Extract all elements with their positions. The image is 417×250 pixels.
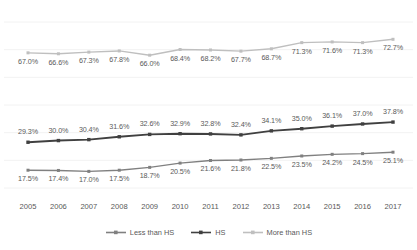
data-point-marker (300, 41, 303, 44)
data-point-marker (209, 159, 212, 162)
data-label: 21.6% (201, 164, 221, 173)
data-label: 32.6% (140, 119, 160, 128)
x-tick-label: 2008 (111, 202, 128, 211)
legend-swatch-icon (190, 228, 212, 237)
data-label: 71.3% (353, 47, 373, 56)
data-point-marker (391, 120, 394, 123)
data-label: 67.7% (231, 55, 251, 64)
data-point-marker (27, 51, 30, 54)
legend-item-less-than-hs[interactable]: Less than HS (105, 228, 174, 237)
data-label: 36.1% (322, 111, 342, 120)
data-point-marker (392, 38, 395, 41)
data-label: 17.5% (109, 174, 129, 183)
x-tick-label: 2009 (141, 202, 158, 211)
data-label: 30.4% (79, 125, 99, 134)
data-point-marker (26, 141, 29, 144)
data-point-marker (361, 122, 364, 125)
data-point-marker (148, 133, 151, 136)
data-point-marker (239, 133, 242, 136)
data-label: 29.3% (18, 127, 38, 136)
data-point-marker (392, 151, 395, 154)
data-point-marker (361, 152, 364, 155)
data-point-marker (57, 139, 60, 142)
data-label: 32.8% (201, 119, 221, 128)
data-point-marker (179, 48, 182, 51)
data-label: 68.4% (170, 54, 190, 63)
data-point-marker (118, 169, 121, 172)
data-label: 32.4% (231, 120, 251, 129)
data-point-marker (331, 40, 334, 43)
data-point-marker (330, 124, 333, 127)
data-label: 71.6% (322, 46, 342, 55)
data-label: 18.7% (140, 171, 160, 180)
data-point-marker (361, 41, 364, 44)
data-point-marker (118, 135, 121, 138)
data-label: 66.6% (48, 58, 68, 67)
data-label: 37.8% (383, 107, 403, 116)
data-point-marker (300, 154, 303, 157)
line-chart: 17.5%17.4%17.0%17.5%18.7%20.5%21.6%21.8%… (0, 0, 417, 250)
data-point-marker (87, 51, 90, 54)
legend-label: HS (215, 228, 225, 237)
legend-item-hs[interactable]: HS (190, 228, 225, 237)
data-label: 66.0% (140, 59, 160, 68)
data-point-marker (331, 153, 334, 156)
x-tick-label: 2011 (202, 202, 218, 211)
legend-swatch-icon (105, 228, 127, 237)
data-point-marker (209, 48, 212, 51)
data-point-marker (179, 162, 182, 165)
data-label: 21.8% (231, 164, 251, 173)
data-point-marker (57, 169, 60, 172)
data-label: 67.3% (79, 56, 99, 65)
data-label: 68.2% (201, 54, 221, 63)
data-label: 67.0% (18, 57, 38, 66)
data-point-marker (270, 129, 273, 132)
data-point-marker (270, 157, 273, 160)
legend-swatch-icon (242, 228, 264, 237)
data-label: 30.0% (48, 126, 68, 135)
data-point-marker (300, 127, 303, 130)
x-tick-label: 2010 (172, 202, 189, 211)
data-label: 24.2% (322, 158, 342, 167)
x-tick-label: 2007 (80, 202, 97, 211)
data-label: 68.7% (261, 53, 281, 62)
legend-item-more-than-hs[interactable]: More than HS (242, 228, 313, 237)
x-tick-label: 2006 (50, 202, 67, 211)
data-point-marker (239, 50, 242, 53)
data-point-marker (148, 166, 151, 169)
data-point-marker (178, 132, 181, 135)
data-label: 35.0% (292, 114, 312, 123)
data-point-marker (87, 138, 90, 141)
data-label: 67.8% (109, 55, 129, 64)
data-label: 17.5% (18, 174, 38, 183)
x-tick-label: 2017 (385, 202, 402, 211)
data-label: 32.9% (170, 119, 190, 128)
data-point-marker (148, 54, 151, 57)
data-point-marker (270, 47, 273, 50)
x-tick-label: 2012 (232, 202, 249, 211)
x-tick-label: 2016 (354, 202, 371, 211)
data-label: 25.1% (383, 156, 403, 165)
data-label: 17.0% (79, 175, 99, 184)
data-label: 37.0% (353, 109, 373, 118)
data-label: 22.5% (261, 162, 281, 171)
data-label: 72.7% (383, 43, 403, 52)
legend-label: Less than HS (130, 228, 174, 237)
chart-legend: Less than HSHSMore than HS (0, 228, 417, 237)
legend-label: More than HS (267, 228, 313, 237)
data-point-marker (239, 159, 242, 162)
x-tick-label: 2015 (324, 202, 341, 211)
data-label: 24.5% (353, 158, 373, 167)
data-label: 23.5% (292, 160, 312, 169)
x-tick-label: 2013 (263, 202, 280, 211)
data-point-marker (209, 132, 212, 135)
data-point-marker (27, 169, 30, 172)
data-label: 31.6% (109, 122, 129, 131)
data-point-marker (118, 49, 121, 52)
data-point-marker (87, 170, 90, 173)
data-point-marker (57, 52, 60, 55)
data-label: 17.4% (48, 174, 68, 183)
data-label: 34.1% (261, 116, 281, 125)
data-label: 20.5% (170, 167, 190, 176)
x-tick-label: 2005 (20, 202, 37, 211)
